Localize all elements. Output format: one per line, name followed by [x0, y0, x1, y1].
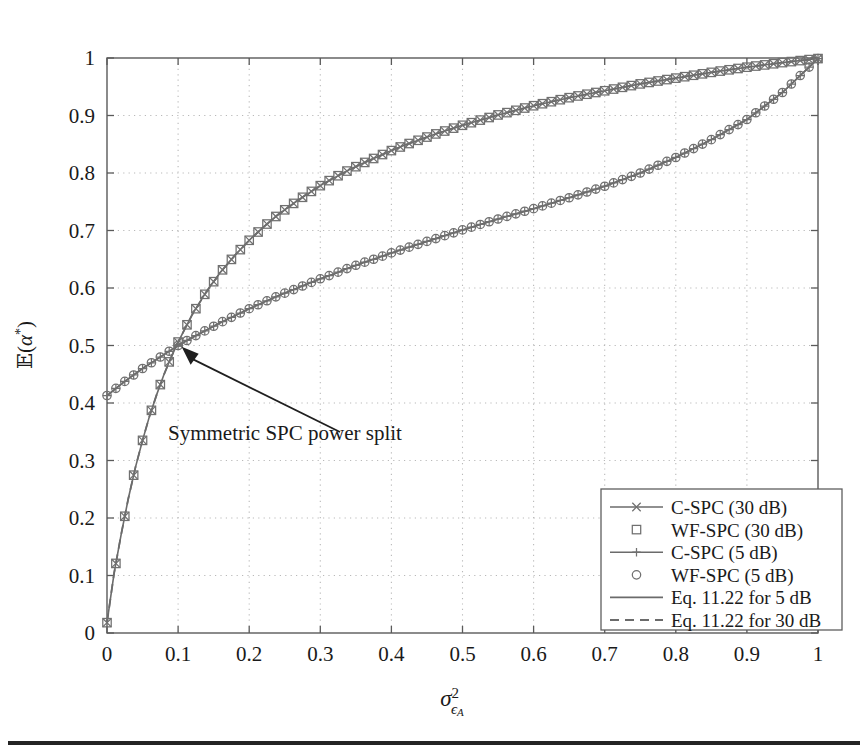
marker-c-spc-30-db — [236, 245, 244, 253]
marker-c-spc-30-db — [387, 146, 395, 154]
x-tick-label: 0 — [102, 642, 113, 666]
y-tick-label: 0.6 — [69, 276, 95, 300]
marker-c-spc-30-db — [192, 305, 200, 313]
marker-c-spc-30-db — [441, 127, 449, 135]
legend-item-label: WF-SPC (5 dB) — [671, 565, 793, 587]
legend-item-label: Eq. 11.22 for 30 dB — [671, 610, 821, 631]
y-tick-label: 0.7 — [69, 219, 95, 243]
marker-c-spc-30-db — [396, 143, 404, 151]
y-tick-label: 0 — [85, 621, 96, 645]
y-axis-title-group: 𝔼(α*) — [13, 321, 38, 369]
y-tick-label: 0.5 — [69, 334, 95, 358]
marker-c-spc-30-db — [254, 228, 262, 236]
annotation-arrow-head — [182, 347, 199, 365]
x-axis-title: σ2ϵA — [440, 685, 464, 718]
marker-c-spc-30-db — [361, 158, 369, 166]
legend-item-label: C-SPC (30 dB) — [671, 497, 787, 519]
x-tick-label: 0.2 — [236, 642, 262, 666]
y-axis-title: 𝔼(α*) — [13, 321, 38, 369]
y-tick-label: 0.1 — [69, 564, 95, 588]
legend-item-label: C-SPC (5 dB) — [671, 542, 778, 564]
marker-c-spc-30-db — [423, 133, 431, 141]
marker-c-spc-30-db — [334, 172, 342, 180]
x-tick-label: 0.3 — [307, 642, 333, 666]
marker-c-spc-30-db — [414, 136, 422, 144]
marker-c-spc-30-db — [405, 139, 413, 147]
marker-c-spc-30-db — [289, 199, 297, 207]
x-tick-label: 0.5 — [449, 642, 475, 666]
marker-c-spc-30-db — [272, 212, 280, 220]
annotation-label: Symmetric SPC power split — [168, 421, 402, 445]
marker-c-spc-30-db — [165, 358, 173, 366]
marker-c-spc-30-db — [183, 321, 191, 329]
x-tick-label: 1 — [813, 642, 824, 666]
x-tick-label: 0.7 — [592, 642, 618, 666]
y-tick-label: 1 — [85, 46, 96, 70]
y-tick-label: 0.4 — [69, 391, 96, 415]
marker-c-spc-30-db — [369, 154, 377, 162]
legend[interactable]: C-SPC (30 dB)WF-SPC (30 dB)C-SPC (5 dB)W… — [601, 489, 842, 631]
marker-c-spc-30-db — [325, 176, 333, 184]
y-tick-label: 0.9 — [69, 104, 95, 128]
marker-c-spc-30-db — [352, 162, 360, 170]
marker-c-spc-30-db — [307, 187, 315, 195]
figure-container: 00.10.20.30.40.50.60.70.80.9100.10.20.30… — [0, 0, 868, 752]
marker-c-spc-30-db — [378, 150, 386, 158]
marker-c-spc-30-db — [147, 406, 155, 414]
bottom-divider-rule — [8, 741, 860, 745]
marker-c-spc-30-db — [156, 380, 164, 388]
marker-c-spc-30-db — [218, 266, 226, 274]
x-tick-label: 0.6 — [520, 642, 546, 666]
marker-c-spc-30-db — [227, 255, 235, 263]
x-tick-label: 0.8 — [663, 642, 689, 666]
annotation-layer: Symmetric SPC power split — [168, 347, 402, 445]
legend-item-label: WF-SPC (30 dB) — [671, 520, 803, 542]
marker-c-spc-30-db — [449, 124, 457, 132]
marker-c-spc-30-db — [298, 193, 306, 201]
marker-c-spc-30-db — [209, 277, 217, 285]
x-tick-label: 0.9 — [734, 642, 760, 666]
marker-c-spc-30-db — [343, 167, 351, 175]
marker-c-spc-30-db — [432, 130, 440, 138]
marker-c-spc-30-db — [201, 290, 209, 298]
x-tick-label: 0.1 — [165, 642, 191, 666]
legend-item-label: Eq. 11.22 for 5 dB — [671, 587, 812, 608]
marker-c-spc-30-db — [263, 220, 271, 228]
chart-canvas[interactable]: 00.10.20.30.40.50.60.70.80.9100.10.20.30… — [0, 0, 868, 752]
y-tick-label: 0.3 — [69, 449, 95, 473]
x-tick-label: 0.4 — [378, 642, 405, 666]
y-tick-label: 0.8 — [69, 161, 95, 185]
y-tick-label: 0.2 — [69, 506, 95, 530]
marker-c-spc-30-db — [281, 206, 289, 214]
